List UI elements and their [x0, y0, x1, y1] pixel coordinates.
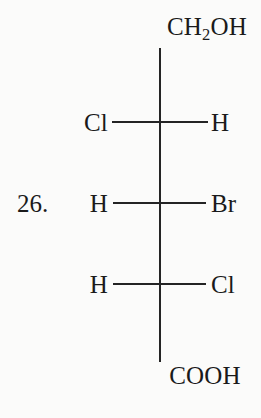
fischer-projection-figure: 26. CH2OH Cl H H Br H Cl COOH — [0, 0, 261, 418]
substituent-left-2: H — [90, 191, 108, 216]
substituent-right-2: Br — [211, 191, 236, 216]
substituent-left-1: Cl — [84, 110, 108, 135]
question-number: 26. — [17, 191, 48, 216]
top-group-prefix: CH — [167, 13, 202, 40]
top-terminal-group-ch2oh: CH2OH — [167, 14, 247, 39]
substituent-right-1: H — [211, 110, 229, 135]
substituent-left-3: H — [90, 272, 108, 297]
horizontal-bond-2 — [113, 202, 206, 204]
top-group-subscript: 2 — [202, 25, 210, 44]
horizontal-bond-3 — [113, 283, 206, 285]
horizontal-bond-1 — [112, 121, 208, 123]
carbon-backbone-line — [159, 48, 161, 362]
bottom-terminal-group-cooh: COOH — [169, 363, 241, 388]
substituent-right-3: Cl — [211, 272, 235, 297]
top-group-suffix: OH — [211, 13, 248, 40]
